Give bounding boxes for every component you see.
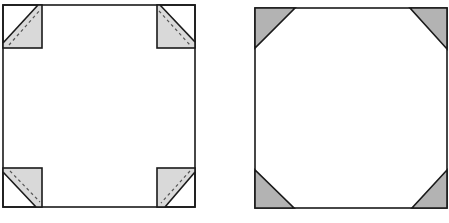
left-square [3, 5, 195, 207]
diagram-canvas [0, 0, 449, 223]
right-square-outline [255, 8, 447, 208]
right-square [255, 8, 447, 208]
